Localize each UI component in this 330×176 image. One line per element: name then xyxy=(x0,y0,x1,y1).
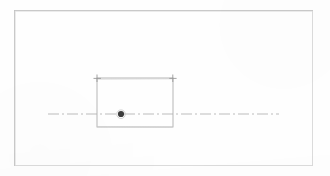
center-point-marker xyxy=(118,111,124,117)
part-outline-wobble xyxy=(97,79,172,127)
corner-tick-top-right xyxy=(169,75,176,83)
corner-tick-top-left xyxy=(94,75,102,83)
technical-drawing-svg xyxy=(0,0,330,176)
part-outline-rectangle xyxy=(97,78,173,127)
sheet-border-frame-shadow xyxy=(16,12,313,166)
drawing-canvas xyxy=(0,0,330,176)
sheet-border-frame xyxy=(15,11,313,166)
